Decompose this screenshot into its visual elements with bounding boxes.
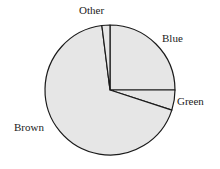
label-other: Other: [79, 5, 104, 16]
label-blue: Blue: [162, 33, 183, 44]
pie-chart: [0, 0, 220, 169]
label-green: Green: [177, 96, 204, 107]
label-brown: Brown: [14, 122, 44, 133]
